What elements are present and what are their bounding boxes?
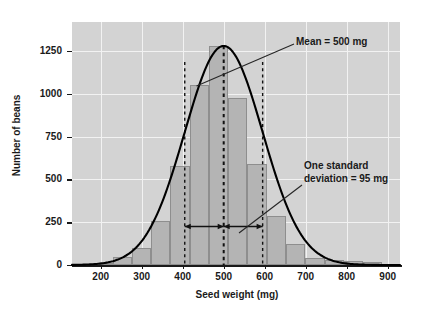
x-tick-label-700: 700 xyxy=(286,272,326,282)
y-tick-750 xyxy=(67,137,72,138)
gridline-x-300 xyxy=(142,22,143,265)
mean-annotation-label: Mean = 500 mg xyxy=(296,36,367,49)
y-tick-label-0: 0 xyxy=(20,260,62,270)
x-tick-label-400: 400 xyxy=(163,272,203,282)
y-tick-label-500: 500 xyxy=(20,174,62,184)
plot-area xyxy=(72,22,400,265)
x-tick-800 xyxy=(347,265,348,269)
x-tick-label-200: 200 xyxy=(81,272,121,282)
y-tick-label-1250: 1250 xyxy=(20,46,62,56)
y-tick-label-750: 750 xyxy=(20,132,62,142)
histogram-bar xyxy=(228,98,247,265)
gridline-y-1000 xyxy=(72,94,400,95)
gridline-x-900 xyxy=(388,22,389,265)
standard-deviation-annotation-label: One standard deviation = 95 mg xyxy=(304,160,388,185)
x-tick-700 xyxy=(306,265,307,269)
x-tick-200 xyxy=(101,265,102,269)
histogram-bar xyxy=(190,85,209,265)
gridline-x-800 xyxy=(347,22,348,265)
y-tick-250 xyxy=(67,222,72,223)
histogram-bar xyxy=(170,166,189,265)
histogram-bar xyxy=(113,257,132,265)
x-tick-300 xyxy=(142,265,143,269)
x-axis-line xyxy=(72,265,402,267)
x-tick-400 xyxy=(183,265,184,269)
x-tick-label-300: 300 xyxy=(122,272,162,282)
gridline-x-700 xyxy=(306,22,307,265)
histogram-bar xyxy=(267,216,286,265)
gridline-x-200 xyxy=(101,22,102,265)
histogram-bar xyxy=(132,248,151,265)
histogram-bar xyxy=(209,46,228,265)
bean-seed-weight-histogram-figure: 025050075010001250 200300400500600700800… xyxy=(0,0,428,320)
y-tick-500 xyxy=(67,179,72,180)
histogram-bar xyxy=(151,221,170,265)
x-tick-500 xyxy=(224,265,225,269)
x-tick-600 xyxy=(265,265,266,269)
y-tick-label-1000: 1000 xyxy=(20,89,62,99)
histogram-bar xyxy=(286,244,305,265)
y-tick-1000 xyxy=(67,94,72,95)
x-tick-label-900: 900 xyxy=(368,272,408,282)
y-tick-1250 xyxy=(67,51,72,52)
x-tick-900 xyxy=(388,265,389,269)
x-axis-label: Seed weight (mg) xyxy=(72,289,402,300)
gridline-y-1250 xyxy=(72,51,400,52)
y-tick-label-250: 250 xyxy=(20,217,62,227)
x-tick-label-800: 800 xyxy=(327,272,367,282)
x-tick-label-600: 600 xyxy=(245,272,285,282)
y-axis-label: Number of beans xyxy=(11,81,22,191)
y-tick-0 xyxy=(67,265,72,266)
histogram-bar xyxy=(305,258,324,265)
histogram-bar xyxy=(247,164,266,265)
x-tick-label-500: 500 xyxy=(204,272,244,282)
